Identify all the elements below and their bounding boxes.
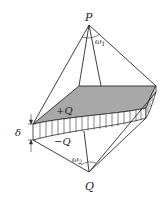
label-q: Q [85,180,94,193]
label-minus-q: −Q [54,136,71,147]
double-layer-diagram: P ω1 +Q −Q ω2 Q δ [0,0,168,198]
label-plus-q: +Q [56,105,73,116]
label-delta: δ [15,127,21,138]
label-p: P [84,11,93,24]
label-omega2: ω2 [72,155,83,165]
